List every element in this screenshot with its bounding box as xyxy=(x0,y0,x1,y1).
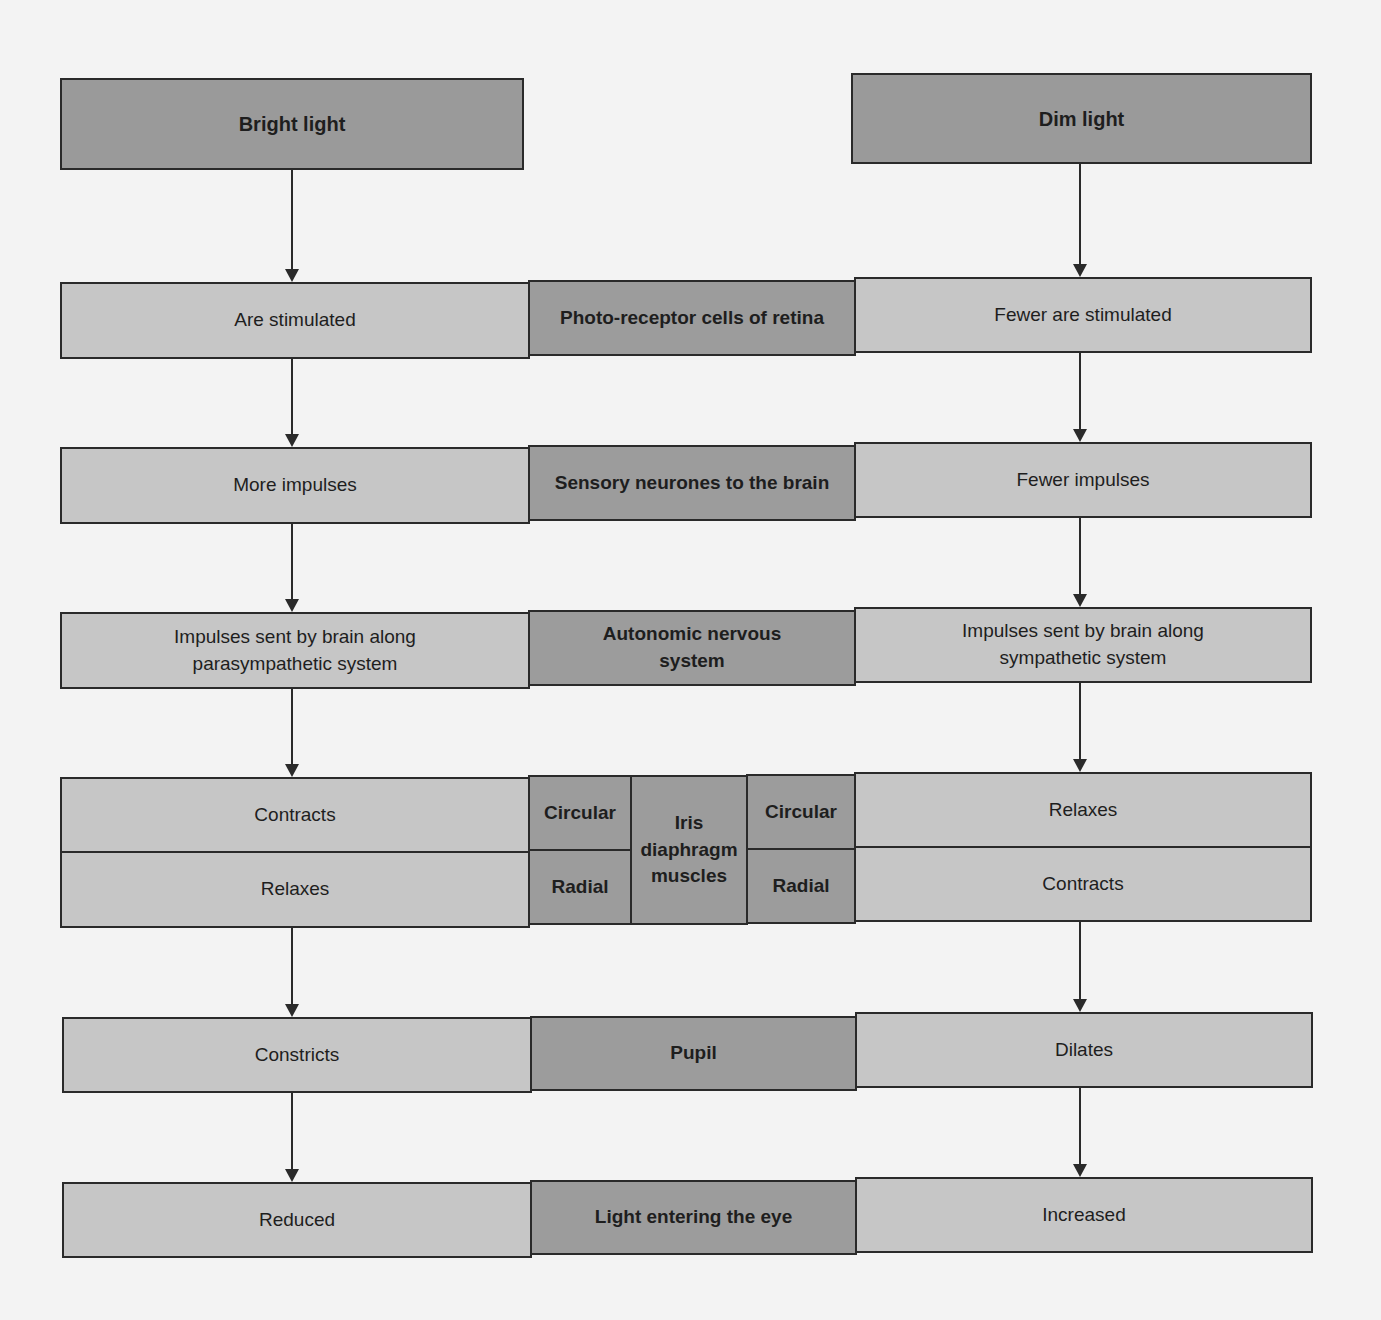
row-iris-center-right-top: Circular xyxy=(746,774,856,850)
row-photoreceptor-center: Photo-receptor cells of retina xyxy=(528,280,856,356)
row-pupil-center: Pupil xyxy=(530,1016,857,1091)
row-iris-center-left-bottom: Radial xyxy=(528,849,632,925)
header-dim-light: Dim light xyxy=(851,73,1312,164)
row-photoreceptor-right: Fewer are stimulated xyxy=(854,277,1312,353)
row-iris-center-left-top: Circular xyxy=(528,775,632,851)
row-photoreceptor-left: Are stimulated xyxy=(60,282,530,359)
row-iris-right-top: Relaxes xyxy=(854,772,1312,848)
row-iris-right-bottom: Contracts xyxy=(854,846,1312,922)
row-light-entering-right: Increased xyxy=(855,1177,1313,1253)
row-autonomic-left: Impulses sent by brain along parasympath… xyxy=(60,612,530,689)
row-sensory-right: Fewer impulses xyxy=(854,442,1312,518)
row-iris-left-top: Contracts xyxy=(60,777,530,853)
row-autonomic-right: Impulses sent by brain along sympathetic… xyxy=(854,607,1312,683)
header-bright-light: Bright light xyxy=(60,78,524,170)
row-light-entering-left: Reduced xyxy=(62,1182,532,1258)
row-pupil-right: Dilates xyxy=(855,1012,1313,1088)
row-sensory-center: Sensory neurones to the brain xyxy=(528,445,856,521)
row-sensory-left: More impulses xyxy=(60,447,530,524)
row-pupil-left: Constricts xyxy=(62,1017,532,1093)
row-iris-center-right-bottom: Radial xyxy=(746,848,856,924)
row-autonomic-center: Autonomic nervous system xyxy=(528,610,856,686)
row-light-entering-center: Light entering the eye xyxy=(530,1180,857,1255)
row-iris-left-bottom: Relaxes xyxy=(60,851,530,928)
row-iris-center: Iris diaphragm muscles xyxy=(630,775,748,925)
